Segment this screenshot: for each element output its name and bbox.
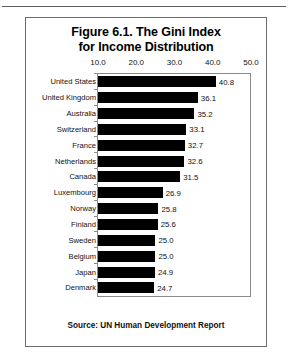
x-axis-tick-10.0: 10.0 (90, 58, 106, 67)
bar-row: Norway25.8 (35, 201, 259, 217)
bar-value-label: 33.1 (189, 125, 204, 134)
y-axis-tick (94, 216, 97, 217)
y-axis-tick (94, 168, 97, 169)
figure-source: Source: UN Human Development Report (26, 321, 266, 330)
x-axis-tick-labels: 10.020.030.040.050.0 (35, 58, 259, 72)
figure-container: Figure 6.1. The Gini Index for Income Di… (25, 17, 267, 347)
bar (98, 203, 158, 214)
bar-row: France32.7 (35, 137, 259, 153)
bar-value-label: 32.6 (187, 157, 202, 166)
cut-off-table-row: Denmark 5/6 20/3 24.7 (0, 0, 288, 5)
bar (98, 282, 154, 293)
bar-value-label: 36.1 (201, 94, 216, 103)
figure-title-line-1: Figure 6.1. The Gini Index (71, 25, 221, 39)
bar (98, 187, 163, 198)
bar-row: United States40.8 (35, 74, 259, 90)
bar-row: United Kingdom36.1 (35, 90, 259, 106)
category-label: Australia (66, 109, 96, 118)
bar-track: 25.8 (98, 203, 251, 214)
category-label: Belgium (69, 252, 96, 261)
bar-track: 31.5 (98, 171, 251, 182)
figure-title: Figure 6.1. The Gini Index for Income Di… (26, 25, 266, 55)
plot-area: 10.020.030.040.050.0 United States40.8Un… (35, 58, 259, 299)
bar-track: 26.9 (98, 187, 251, 198)
bar (98, 108, 194, 119)
y-axis-tick (94, 152, 97, 153)
bar (98, 124, 186, 135)
bar-value-label: 31.5 (183, 173, 198, 182)
y-axis-tick (94, 184, 97, 185)
bar-track: 24.9 (98, 267, 251, 278)
bar-row: Luxembourg26.9 (35, 185, 259, 201)
category-label: Netherlands (55, 157, 96, 166)
y-axis-tick (94, 231, 97, 232)
bar-row: Sweden25.0 (35, 232, 259, 248)
bar-row: Japan24.9 (35, 264, 259, 280)
y-axis-tick (94, 200, 97, 201)
bleed-cell-country: Denmark (4, 0, 34, 2)
category-label: Japan (75, 268, 96, 277)
category-label: Denmark (65, 283, 96, 292)
x-axis-tick-20.0: 20.0 (128, 58, 144, 67)
y-axis-tick (94, 105, 97, 106)
bar-track: 40.8 (98, 76, 251, 87)
x-axis-tick-40.0: 40.0 (205, 58, 221, 67)
bar-track: 33.1 (98, 124, 251, 135)
y-axis-tick (94, 247, 97, 248)
bar (98, 140, 185, 151)
bar-value-label: 24.7 (157, 284, 172, 293)
y-axis-tick (94, 73, 97, 74)
bar-track: 35.2 (98, 108, 251, 119)
bar-value-label: 25.6 (161, 220, 176, 229)
bar-value-label: 40.8 (219, 78, 234, 87)
bar-track: 32.6 (98, 156, 251, 167)
bar-row: Belgium25.0 (35, 248, 259, 264)
bar (98, 156, 184, 167)
bar-row: Australia35.2 (35, 106, 259, 122)
y-axis-tick (94, 89, 97, 90)
category-label: Canada (69, 172, 96, 181)
bar (98, 267, 155, 278)
bar-value-label: 25.0 (158, 236, 173, 245)
category-label: Luxembourg (54, 188, 96, 197)
bar-row: Switzerland33.1 (35, 122, 259, 138)
bar-track: 36.1 (98, 92, 251, 103)
bar (98, 76, 216, 87)
y-axis-tick (94, 121, 97, 122)
bar (98, 92, 198, 103)
category-label: France (72, 141, 96, 150)
page-bleed-row: Denmark 5/6 20/3 24.7 (0, 0, 288, 11)
bar-value-label: 24.9 (158, 268, 173, 277)
category-label: Sweden (69, 236, 96, 245)
bar-row: Netherlands32.6 (35, 153, 259, 169)
x-axis-tick-50.0: 50.0 (243, 58, 259, 67)
bar-track: 25.0 (98, 251, 251, 262)
bar-track: 32.7 (98, 140, 251, 151)
bar-value-label: 25.8 (161, 205, 176, 214)
category-label: Norway (70, 204, 96, 213)
category-label: United States (50, 77, 96, 86)
category-label: United Kingdom (42, 93, 96, 102)
bar-value-label: 25.0 (158, 252, 173, 261)
bar (98, 171, 180, 182)
y-axis-tick (94, 136, 97, 137)
x-axis-tick-30.0: 30.0 (167, 58, 183, 67)
bar-row: Finland25.6 (35, 217, 259, 233)
bleed-cell-value-3: 24.7 (262, 0, 277, 2)
bleed-cell-value-1: 5/6 (108, 0, 118, 2)
bar-track: 24.7 (98, 282, 251, 293)
y-axis-tick (94, 263, 97, 264)
bar-row: Denmark24.7 (35, 280, 259, 296)
bar-value-label: 35.2 (197, 110, 212, 119)
category-label: Switzerland (57, 125, 96, 134)
bar-track: 25.6 (98, 219, 251, 230)
page-rule-divider (2, 6, 286, 7)
bar-value-label: 26.9 (166, 189, 181, 198)
y-axis-tick (94, 279, 97, 280)
bar (98, 251, 155, 262)
bar (98, 235, 155, 246)
category-label: Finland (71, 220, 96, 229)
bar-rows: United States40.8United Kingdom36.1Austr… (35, 74, 259, 296)
bar-row: Canada31.5 (35, 169, 259, 185)
bleed-cell-value-2: 20/3 (178, 0, 193, 2)
